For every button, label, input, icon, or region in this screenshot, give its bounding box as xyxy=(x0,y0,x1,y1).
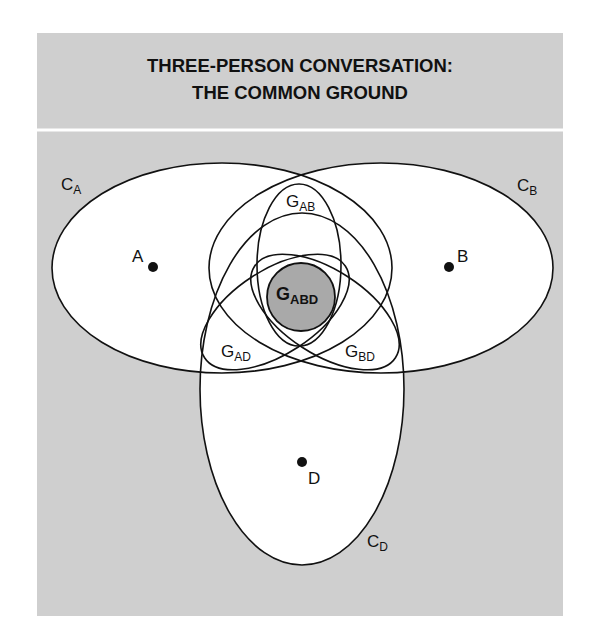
context-b-sub: B xyxy=(529,184,537,198)
person-a-label: A xyxy=(132,247,144,266)
common-ground-diagram: THREE-PERSON CONVERSATION: THE COMMON GR… xyxy=(0,0,593,643)
common-ground-bd-main: G xyxy=(345,342,358,361)
person-a-dot xyxy=(148,262,158,272)
common-ground-bd-sub: BD xyxy=(358,350,375,364)
context-b-main: C xyxy=(517,176,529,195)
person-d-label: D xyxy=(308,469,320,488)
context-d-sub: D xyxy=(379,540,388,554)
context-a-main: C xyxy=(61,175,73,194)
person-b-dot xyxy=(444,262,454,272)
common-ground-ad-sub: AD xyxy=(234,350,251,364)
common-ground-ab-main: G xyxy=(286,192,299,211)
person-b-label: B xyxy=(457,247,468,266)
context-d-main: C xyxy=(367,532,379,551)
common-ground-ad-main: G xyxy=(221,342,234,361)
title-line-1: THREE-PERSON CONVERSATION: xyxy=(147,55,453,76)
context-a-sub: A xyxy=(73,183,81,197)
common-ground-abd-sub: ABD xyxy=(290,292,318,307)
person-d-dot xyxy=(297,457,307,467)
common-ground-abd-main: G xyxy=(276,284,290,304)
common-ground-ab-sub: AB xyxy=(299,200,315,214)
title-line-2: THE COMMON GROUND xyxy=(192,82,408,103)
